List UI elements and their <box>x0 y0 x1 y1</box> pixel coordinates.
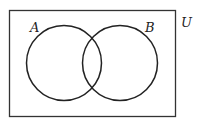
set-b-label: B <box>144 20 155 35</box>
set-b-circle <box>83 26 158 101</box>
venn-diagram: A B U <box>0 0 201 121</box>
universe-label: U <box>181 15 193 30</box>
set-a-circle <box>27 26 102 101</box>
set-a-label: A <box>29 20 39 35</box>
